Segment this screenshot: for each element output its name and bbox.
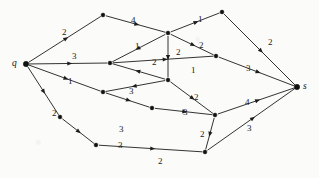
graph-node — [150, 106, 154, 110]
edge-b-e — [166, 36, 170, 77]
edge-e-g — [106, 81, 165, 92]
edge-weight-label: 2 — [268, 38, 273, 47]
edge-weight-label: 3 — [246, 64, 251, 73]
edge-weight-label: 1 — [135, 42, 140, 51]
edge-arrowhead — [41, 88, 45, 93]
graph-node — [58, 115, 62, 119]
terminal-label-q: q — [12, 58, 17, 68]
edge-weight-label: 2 — [62, 28, 67, 37]
graph-node — [203, 150, 207, 154]
edge-weight-label: 2 — [176, 48, 181, 57]
edge-f-s — [219, 57, 295, 86]
graph-node — [101, 13, 105, 17]
edge-weight-label: 3 — [72, 52, 77, 61]
edge-e-d — [112, 64, 165, 79]
edge-weight-label: 3 — [129, 87, 134, 96]
graph-node — [166, 31, 170, 35]
edge-weight-label: 2 — [199, 41, 204, 50]
edge-arrowhead — [150, 146, 155, 150]
edge-weight-label: 4 — [245, 98, 250, 107]
edge-q-g — [29, 65, 101, 91]
edge-weight-label: 2 — [158, 157, 163, 166]
edge-b-c — [171, 13, 220, 32]
edge-arrowhead — [126, 98, 131, 102]
edge-weight-label: 2 — [194, 93, 199, 102]
graph-node — [214, 54, 218, 58]
graph-node — [94, 143, 98, 147]
edge-weight-label: 1 — [191, 66, 196, 75]
edge-weight-label: 2 — [152, 58, 157, 67]
edge-q-a — [29, 16, 101, 62]
edge-j-k — [99, 145, 202, 152]
graph-canvas — [0, 0, 319, 178]
graph-node — [213, 113, 217, 117]
graph-figure: 2312412122132323342332qs — [0, 0, 319, 178]
edge-weight-label: 1 — [68, 77, 73, 86]
edge-weight-label: 3 — [118, 141, 123, 150]
edge-q-d — [29, 61, 107, 65]
edge-weight-label: 3 — [119, 125, 124, 134]
edge-g-h — [106, 93, 150, 107]
edge-arrowhead — [163, 57, 168, 61]
edge-weight-label: 3 — [183, 108, 188, 117]
edge-d-f — [113, 56, 213, 63]
edge-arrowhead — [135, 70, 140, 74]
edge-arrowhead — [255, 99, 260, 103]
edge-arrowhead — [63, 37, 68, 41]
edge-arrowhead — [250, 117, 255, 122]
graph-node — [108, 61, 112, 65]
terminal-label-s: s — [303, 81, 307, 91]
edge-k-s — [207, 89, 294, 151]
graph-node-s — [294, 84, 299, 89]
graph-node — [166, 78, 170, 82]
edge-weight-label: 3 — [247, 124, 252, 133]
edge-e-i — [170, 82, 213, 114]
edge-i-k — [206, 118, 215, 150]
graph-node — [220, 10, 224, 14]
edge-c-s — [224, 14, 295, 85]
edge-arrowhead — [67, 61, 72, 65]
edge-i-s — [218, 88, 295, 114]
graph-node-q — [23, 61, 28, 66]
edge-arrowhead — [255, 69, 260, 73]
graph-node — [101, 90, 105, 94]
edge-weight-label: 2 — [52, 109, 57, 118]
edge-m-j — [62, 119, 94, 144]
edge-weight-label: 2 — [200, 130, 205, 139]
edge-weight-label: 1 — [198, 15, 203, 24]
edge-weight-label: 4 — [131, 16, 136, 25]
